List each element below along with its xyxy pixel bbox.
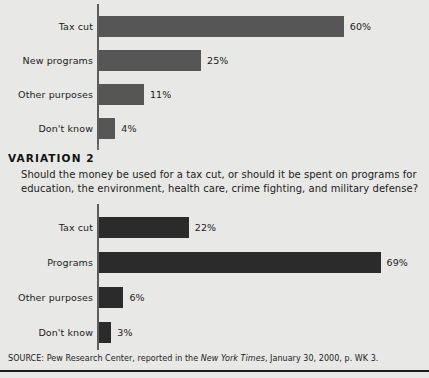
chart2-category-label-0: Tax cut: [0, 222, 93, 233]
variation-2-question: Should the money be used for a tax cut, …: [21, 168, 421, 195]
chart1-bar-1: [99, 50, 201, 71]
chart2-row-tax-cut: Tax cut 22%: [0, 214, 429, 240]
chart2-bar-group-3: 3%: [99, 319, 133, 345]
chart1-bar-0: [99, 16, 344, 37]
chart1-bar-value-1: 25%: [207, 55, 228, 66]
chart2-category-label-1: Programs: [0, 257, 93, 268]
chart2-category-label-3: Don't know: [0, 327, 93, 338]
variation-2-title: VARIATION 2: [8, 152, 426, 165]
chart1-bar-2: [99, 84, 144, 105]
chart1-bar-group-0: 60%: [99, 13, 371, 39]
source-prefix: SOURCE: Pew Research Center, reported in…: [8, 354, 201, 363]
chart1-bar-value-3: 4%: [121, 123, 136, 134]
chart2-bar-group-0: 22%: [99, 214, 216, 240]
chart2-bar-value-2: 6%: [129, 292, 144, 303]
chart2-bar-group-2: 6%: [99, 284, 145, 310]
figure-container: Tax cut 60% New programs 25% Other purpo…: [0, 0, 429, 378]
chart2-bar-0: [99, 217, 189, 238]
chart1-axis-tail: [97, 144, 99, 150]
chart2-bar-1: [99, 252, 381, 273]
chart1-bar-group-3: 4%: [99, 115, 137, 141]
chart1-bar-group-1: 25%: [99, 47, 228, 73]
variation-1-chart: Tax cut 60% New programs 25% Other purpo…: [0, 0, 429, 148]
chart1-category-label-2: Other purposes: [0, 89, 93, 100]
chart2-bar-value-1: 69%: [387, 257, 408, 268]
chart1-category-label-3: Don't know: [0, 123, 93, 134]
source-publication: New York Times: [201, 354, 265, 363]
chart1-row-tax-cut: Tax cut 60%: [0, 13, 429, 39]
chart2-bar-2: [99, 287, 123, 308]
chart1-bar-3: [99, 118, 115, 139]
chart2-bar-group-1: 69%: [99, 249, 408, 275]
source-note: SOURCE: Pew Research Center, reported in…: [8, 354, 378, 364]
chart1-row-dont-know: Don't know 4%: [0, 115, 429, 141]
variation-2-chart: Tax cut 22% Programs 69% Other purposes …: [0, 200, 429, 350]
chart1-row-other-purposes: Other purposes 11%: [0, 81, 429, 107]
variation-2-block: VARIATION 2 Should the money be used for…: [8, 152, 426, 195]
chart2-bar-value-3: 3%: [117, 327, 132, 338]
chart1-category-label-1: New programs: [0, 55, 93, 66]
bottom-rule: [0, 370, 429, 372]
chart1-bar-value-2: 11%: [150, 89, 171, 100]
chart2-row-dont-know: Don't know 3%: [0, 319, 429, 345]
chart2-bar-value-0: 22%: [195, 222, 216, 233]
chart1-row-new-programs: New programs 25%: [0, 47, 429, 73]
chart2-row-other-purposes: Other purposes 6%: [0, 284, 429, 310]
chart2-category-label-2: Other purposes: [0, 292, 93, 303]
chart1-bar-group-2: 11%: [99, 81, 171, 107]
chart1-category-label-0: Tax cut: [0, 21, 93, 32]
source-suffix: , January 30, 2000, p. WK 3.: [265, 354, 379, 363]
chart2-row-programs: Programs 69%: [0, 249, 429, 275]
chart1-bar-value-0: 60%: [350, 21, 371, 32]
chart2-bar-3: [99, 322, 111, 343]
